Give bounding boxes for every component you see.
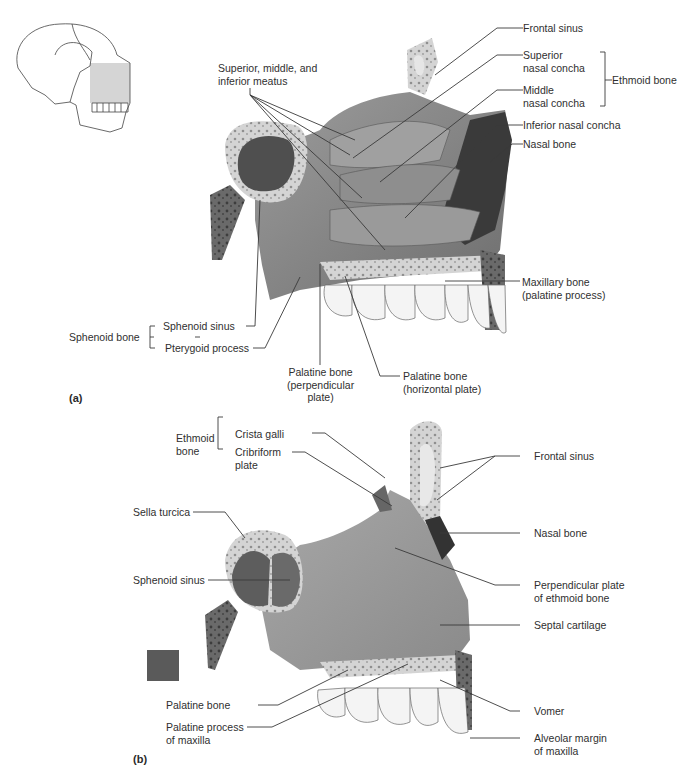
panel-label-b: (b)	[133, 753, 147, 765]
label-palatine-horizontal: Palatine bone (horizontal plate)	[403, 370, 481, 395]
label-sphenoid-sinus-a: Sphenoid sinus	[163, 320, 235, 333]
label-ethmoid-bone-a: Ethmoid bone	[612, 74, 677, 87]
color-swatch	[147, 650, 179, 681]
panel-label-a: (a)	[69, 392, 82, 404]
label-vomer: Vomer	[534, 705, 564, 718]
label-palatine-perpendicular: Palatine bone (perpendicular plate)	[287, 366, 354, 404]
label-cribriform-plate: Cribriform plate	[235, 446, 281, 471]
label-septal-cartilage: Septal cartilage	[534, 619, 606, 632]
label-middle-nasal-concha: Middle nasal concha	[523, 84, 585, 109]
label-frontal-sinus-a: Frontal sinus	[523, 22, 583, 35]
label-sella-turcica: Sella turcica	[133, 506, 190, 519]
label-nasal-bone-a: Nasal bone	[523, 138, 576, 151]
label-perpendicular-plate: Perpendicular plate of ethmoid bone	[534, 579, 624, 604]
label-ethmoid-bone-b: Ethmoid bone	[176, 432, 215, 457]
label-palatine-bone-b: Palatine bone	[166, 699, 230, 712]
label-crista-galli: Crista galli	[235, 428, 284, 441]
label-pterygoid-process: Pterygoid process	[165, 342, 249, 355]
label-nasal-bone-b: Nasal bone	[534, 527, 587, 540]
label-inferior-nasal-concha: Inferior nasal concha	[523, 119, 620, 132]
label-maxillary-bone: Maxillary bone (palatine process)	[522, 276, 605, 301]
label-alveolar-margin: Alveolar margin of maxilla	[534, 732, 607, 757]
label-sphenoid-bone: Sphenoid bone	[69, 331, 140, 344]
skull-orientation-icon	[17, 24, 130, 132]
label-palatine-process: Palatine process of maxilla	[166, 721, 244, 746]
label-superior-nasal-concha: Superior nasal concha	[523, 49, 585, 74]
label-meatus: Superior, middle, and inferior meatus	[218, 62, 317, 87]
label-frontal-sinus-b: Frontal sinus	[534, 450, 594, 463]
nasal-cavity-figure: Superior, middle, and inferior meatus Fr…	[0, 0, 697, 779]
label-sphenoid-sinus-b: Sphenoid sinus	[133, 574, 205, 587]
